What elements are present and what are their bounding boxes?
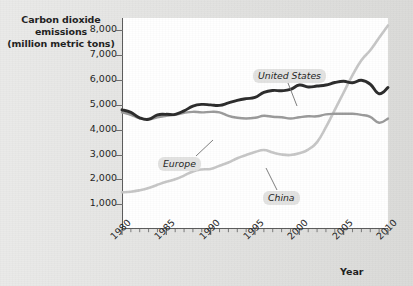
series-label-united-states: United States (253, 69, 326, 83)
y-tick-label-text: 1,000 (90, 197, 117, 208)
y-tick-label-text: 4,000 (90, 123, 117, 134)
series-label-europe: Europe (158, 157, 201, 171)
y-tick-mark-5000 (116, 105, 123, 106)
x-tick-label-1980: 1980 (108, 217, 133, 242)
y-tick-label-text: 2,000 (90, 172, 117, 183)
plot-area (122, 18, 388, 229)
y-tick-label-text: 5,000 (90, 98, 117, 109)
y-tick-mark-4000 (116, 130, 123, 131)
y-tick-label-text: 7,000 (90, 48, 117, 59)
y-tick-mark-2000 (116, 179, 123, 180)
y-tick-label-text: 3,000 (90, 148, 117, 159)
y-tick-mark-1000 (116, 204, 123, 205)
series-label-china: China (263, 191, 300, 205)
x-axis-title: Year (340, 266, 364, 277)
y-tick-mark-6000 (116, 80, 123, 81)
y-tick-mark-8000 (116, 30, 123, 31)
chart-figure: Carbon dioxide emissions (million metric… (0, 0, 413, 286)
y-tick-mark-7000 (116, 55, 123, 56)
y-tick-label-text: 6,000 (90, 73, 117, 84)
y-tick-label-text: 8,000 (90, 23, 117, 34)
y-tick-mark-3000 (116, 155, 123, 156)
